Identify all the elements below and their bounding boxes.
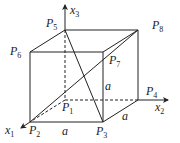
label-p6: P6 — [9, 44, 21, 60]
label-edge-right-depth: a — [122, 109, 128, 123]
label-x2: x2 — [154, 100, 164, 116]
cube-diagram: P5 P6 P8 P7 P1 P4 P3 P2 x3 x2 x1 a a a — [0, 0, 180, 143]
label-p2: P2 — [28, 123, 40, 139]
label-p1: P1 — [61, 100, 73, 116]
label-p7: P7 — [108, 53, 120, 69]
hidden-edge-p1-p2 — [30, 100, 65, 122]
label-p4: P4 — [145, 84, 157, 100]
label-x1: x1 — [4, 123, 14, 139]
label-edge-front-bottom: a — [62, 124, 68, 138]
label-x3: x3 — [69, 3, 79, 19]
label-p3: P3 — [95, 124, 107, 140]
label-edge-front-vertical: a — [105, 79, 111, 93]
edge-p7-p8 — [103, 30, 138, 52]
edge-p3-p4 — [103, 100, 138, 122]
label-p5: P5 — [45, 16, 57, 32]
label-p8: P8 — [151, 18, 163, 34]
edge-p6-p5 — [30, 30, 65, 52]
